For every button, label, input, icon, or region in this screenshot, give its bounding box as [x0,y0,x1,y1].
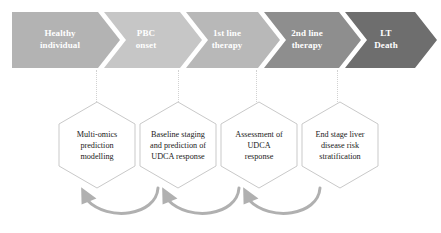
feedback-arrow-3-to-2 [157,184,239,214]
feedback-arrow-4-to-3 [238,184,320,214]
diagram-canvas: Healthy individual PBC onset 1st line th… [0,0,441,233]
connector-stage-3 [256,70,257,104]
disease-course-timeline: Healthy individual PBC onset 1st line th… [0,0,441,72]
feedback-arrow-group [0,160,441,233]
connector-stage-4 [337,70,338,104]
connector-stage-2 [178,70,179,104]
connector-stage-1 [96,70,97,104]
chevron-healthy-individual[interactable] [12,12,120,68]
feedback-arrow-2-to-1 [76,184,158,214]
